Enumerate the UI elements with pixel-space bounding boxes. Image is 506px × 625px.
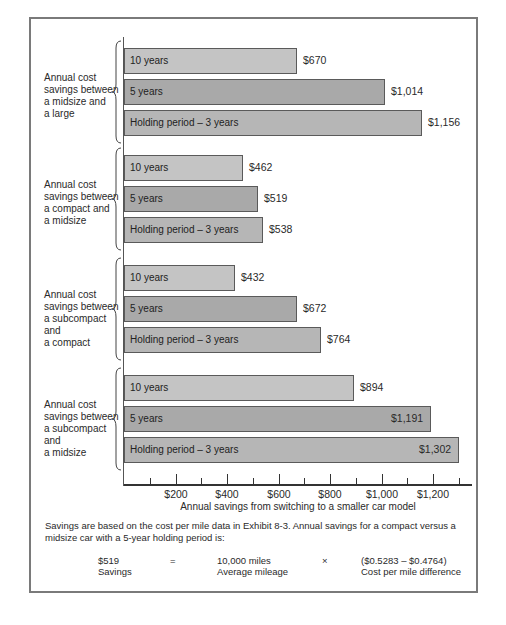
cost-diff-label: Cost per mile difference <box>361 566 461 577</box>
bar: 5 years <box>124 79 385 105</box>
bar-value-label: $538 <box>269 223 292 235</box>
minor-tick <box>253 478 254 484</box>
bar: Holding period – 3 years <box>124 217 263 243</box>
group-label: Annual costsavings betweena compact anda… <box>44 179 120 227</box>
curly-brace-icon <box>112 367 122 471</box>
bar: Holding period – 3 years <box>124 110 422 136</box>
group-label-line: Annual cost <box>44 179 120 191</box>
minor-tick <box>356 478 357 484</box>
bar-value-label: $1,302 <box>419 443 451 455</box>
major-tick <box>382 474 383 484</box>
group-label: Annual costsavings betweena subcompact a… <box>44 399 120 459</box>
group-label-line: Annual cost <box>44 289 120 301</box>
bar-label: 5 years <box>130 86 163 97</box>
bar-value-label: $764 <box>327 333 350 345</box>
savings-value: $519 <box>98 555 132 566</box>
group-label-line: a compact <box>44 337 120 349</box>
tick-label: $1,000 <box>366 488 398 500</box>
bar-label: 10 years <box>130 382 168 393</box>
bar-value-label: $1,014 <box>391 85 423 97</box>
major-tick <box>176 474 177 484</box>
equation-cost-diff: ($0.5283 – $0.4764) Cost per mile differ… <box>361 555 461 577</box>
minor-tick <box>407 478 408 484</box>
bar-label: Holding period – 3 years <box>130 224 238 235</box>
bar: Holding period – 3 years <box>124 437 459 463</box>
major-tick <box>279 474 280 484</box>
bar-value-label: $1,156 <box>428 116 460 128</box>
group-label-line: savings between <box>44 84 120 96</box>
x-axis-line <box>124 484 472 486</box>
group-label-line: a midsize <box>44 215 120 227</box>
tick-label: $600 <box>267 488 290 500</box>
bar: 5 years <box>124 296 297 322</box>
footnote-text: Savings are based on the cost per mile d… <box>45 520 465 544</box>
group-label: Annual costsavings betweena midsize anda… <box>44 72 120 120</box>
curly-brace-icon <box>112 40 122 144</box>
tick-label: $200 <box>164 488 187 500</box>
minor-tick <box>201 478 202 484</box>
bar: Holding period – 3 years <box>124 327 321 353</box>
major-tick <box>330 474 331 484</box>
bar: 5 years <box>124 406 431 432</box>
bar: 10 years <box>124 265 235 291</box>
group-label-line: savings between <box>44 191 120 203</box>
bar-label: 5 years <box>130 413 163 424</box>
mileage-value: 10,000 miles <box>217 555 288 566</box>
times-sign: × <box>322 555 328 566</box>
cost-diff-value: ($0.5283 – $0.4764) <box>361 555 461 566</box>
minor-tick <box>150 478 151 484</box>
bar-label: 10 years <box>130 272 168 283</box>
bar-value-label: $670 <box>303 54 326 66</box>
tick-label: $1,200 <box>417 488 449 500</box>
mileage-label: Average mileage <box>217 566 288 577</box>
bar-value-label: $1,191 <box>391 412 423 424</box>
equation-mileage: 10,000 miles Average mileage <box>217 555 288 577</box>
bar-value-label: $894 <box>360 381 383 393</box>
group-label-line: Annual cost <box>44 399 120 411</box>
group-label-line: a subcompact and <box>44 313 120 337</box>
bar-label: Holding period – 3 years <box>130 334 238 345</box>
curly-brace-icon <box>112 257 122 361</box>
group-label-line: a large <box>44 108 120 120</box>
bar-value-label: $432 <box>241 271 264 283</box>
group-label-line: savings between <box>44 301 120 313</box>
bar-label: 5 years <box>130 193 163 204</box>
bar: 10 years <box>124 375 354 401</box>
group-label-line: a subcompact and <box>44 423 120 447</box>
bar-label: 5 years <box>130 303 163 314</box>
equals-sign: = <box>170 555 176 566</box>
bar-label: 10 years <box>130 55 168 66</box>
curly-brace-icon <box>112 147 122 251</box>
minor-tick <box>459 478 460 484</box>
group-label-line: a compact and <box>44 203 120 215</box>
bar-value-label: $462 <box>249 161 272 173</box>
x-axis-label: Annual savings from switching to a small… <box>124 501 472 512</box>
group-label: Annual costsavings betweena subcompact a… <box>44 289 120 349</box>
group-label-line: savings between <box>44 411 120 423</box>
group-label-line: a midsize <box>44 447 120 459</box>
equation-savings: $519 Savings <box>98 555 132 577</box>
tick-label: $400 <box>215 488 238 500</box>
savings-label: Savings <box>98 566 132 577</box>
bar: 5 years <box>124 186 258 212</box>
bar-label: Holding period – 3 years <box>130 117 238 128</box>
bar-value-label: $519 <box>264 192 287 204</box>
minor-tick <box>304 478 305 484</box>
bar: 10 years <box>124 155 243 181</box>
tick-label: $800 <box>318 488 341 500</box>
bar-label: Holding period – 3 years <box>130 444 238 455</box>
group-label-line: a midsize and <box>44 96 120 108</box>
major-tick <box>227 474 228 484</box>
bar-label: 10 years <box>130 162 168 173</box>
major-tick <box>433 474 434 484</box>
bar-value-label: $672 <box>303 302 326 314</box>
group-label-line: Annual cost <box>44 72 120 84</box>
bar: 10 years <box>124 48 297 74</box>
